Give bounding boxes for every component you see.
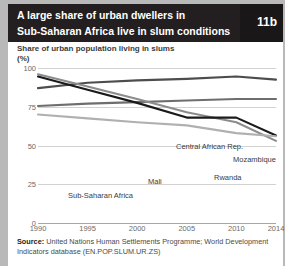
figure-title-bar: A large share of urban dwellers in Sub-S…: [8, 4, 283, 42]
figure-panel: A large share of urban dwellers in Sub-S…: [8, 4, 283, 266]
series-line-sub-saharan-africa: [38, 115, 276, 137]
figure-number-text: 11b: [257, 15, 277, 29]
series-label-sub-saharan-africa: Sub-Saharan Africa: [68, 191, 133, 200]
chart-plot-area: 0255075100 199019952000200520102014 Cent…: [8, 60, 283, 230]
source-note: Source: United Nations Human Settlements…: [17, 237, 275, 256]
figure-title-line2: Sub-Saharan Africa live in slum conditio…: [17, 23, 232, 39]
series-label-central-african-rep: Central African Rep.: [176, 142, 243, 151]
series-label-mali: Mali: [148, 177, 162, 186]
source-text: United Nations Human Settlements Program…: [17, 237, 268, 256]
source-label: Source:: [17, 237, 44, 246]
series-label-mozambique: Mozambique: [233, 155, 276, 164]
series-label-rwanda: Rwanda: [214, 173, 242, 182]
chart-subtitle: Share of urban population living in slum…: [17, 44, 174, 54]
series-line-mali: [38, 77, 276, 136]
figure-title-line1: A large share of urban dwellers in: [17, 7, 232, 23]
figure-title: A large share of urban dwellers in Sub-S…: [17, 7, 232, 39]
series-line-rwanda: [38, 74, 276, 141]
figure-number-badge: 11b: [240, 4, 283, 42]
